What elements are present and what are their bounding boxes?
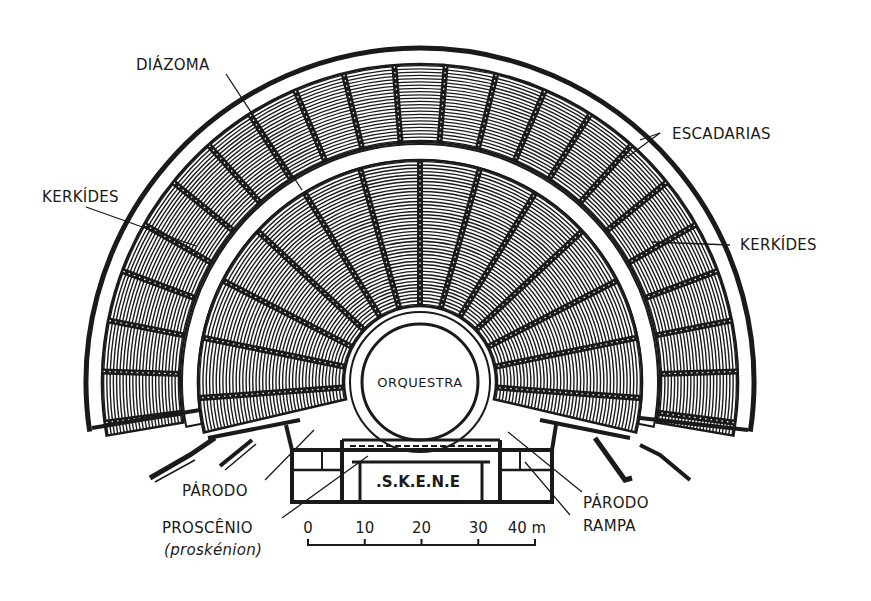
label-kerkides-left: KERKÍDES: [42, 187, 119, 206]
label-proscenio: PROSCÊNIO: [162, 518, 253, 537]
label-parodo-left: PÁRODO: [182, 481, 248, 500]
greek-theatre-plan: ORQUESTRA .S.K.E.N.E: [0, 0, 871, 601]
scale-tick-label: 0: [303, 519, 313, 537]
label-skene: .S.K.E.N.E: [376, 473, 460, 491]
label-rampa: RAMPA: [583, 517, 636, 535]
label-escadarias: ESCADARIAS: [672, 125, 771, 143]
scale-tick-label: 30: [469, 519, 488, 537]
scale-tick-label: 40 m: [508, 519, 546, 537]
label-diazoma: DIÁZOMA: [136, 55, 210, 74]
label-proskenion: (proskénion): [164, 541, 262, 559]
scale-tick-label: 10: [355, 519, 374, 537]
scale-tick-label: 20: [412, 519, 431, 537]
label-orquestra: ORQUESTRA: [377, 375, 462, 390]
label-parodo-right: PÁRODO: [583, 493, 649, 512]
skene-building: .S.K.E.N.E: [292, 440, 552, 502]
orchestra: ORQUESTRA: [350, 312, 490, 452]
label-kerkides-right: KERKÍDES: [740, 235, 817, 254]
scale-bar: 010203040 m: [303, 519, 546, 546]
